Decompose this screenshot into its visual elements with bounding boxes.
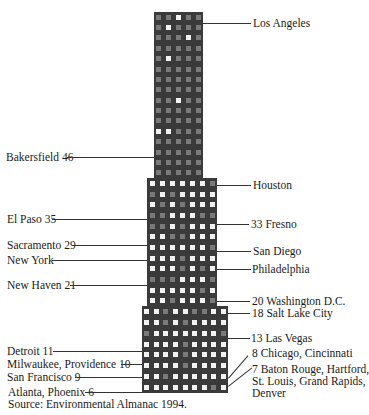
window-icon [166, 77, 171, 82]
window-icon [190, 288, 195, 293]
window-icon [156, 56, 161, 61]
leader-las-vegas [228, 338, 250, 339]
window-icon [144, 385, 149, 390]
leader-detroit [53, 351, 142, 352]
window-icon [173, 363, 178, 368]
window-icon [180, 256, 185, 261]
window-icon [211, 374, 216, 379]
source-note: Source: Environmental Almanac 1994. [8, 398, 187, 410]
window-icon [154, 385, 159, 390]
window-icon [186, 15, 191, 20]
window-icon [210, 181, 215, 186]
window-icon [156, 150, 161, 155]
building-tier-middle [147, 178, 217, 306]
window-icon [186, 25, 191, 30]
window-icon [144, 331, 149, 336]
window-icon [173, 331, 178, 336]
window-icon [202, 342, 207, 347]
leader-philadelphia [217, 269, 251, 270]
window-icon [163, 374, 168, 379]
window-icon [156, 67, 161, 72]
window-icon [186, 118, 191, 123]
window-icon [150, 181, 155, 186]
window-icon [190, 213, 195, 218]
label-baton-rouge-3: Denver [252, 387, 286, 399]
window-icon [176, 160, 181, 165]
window-icon [210, 298, 215, 303]
window-icon [211, 320, 216, 325]
window-icon [200, 181, 205, 186]
window-icon [173, 320, 178, 325]
window-icon [180, 234, 185, 239]
window-icon [196, 118, 201, 123]
window-icon [176, 170, 181, 175]
window-icon [202, 363, 207, 368]
window-icon [196, 87, 201, 92]
label-bakersfield: Bakersfield 46 [6, 151, 73, 163]
window-icon [183, 385, 188, 390]
window-icon [166, 67, 171, 72]
window-icon [210, 234, 215, 239]
window-icon [176, 15, 181, 20]
window-icon [180, 202, 185, 207]
window-icon [186, 46, 191, 51]
window-icon [176, 118, 181, 123]
window-icon [211, 342, 216, 347]
leader-new-york [52, 260, 147, 261]
window-icon [202, 374, 207, 379]
window-icon [180, 277, 185, 282]
window-icon [166, 118, 171, 123]
window-icon [156, 77, 161, 82]
window-icon [190, 298, 195, 303]
window-icon [186, 129, 191, 134]
window-icon [163, 331, 168, 336]
window-icon [163, 385, 168, 390]
window-icon [144, 363, 149, 368]
window-icon [156, 35, 161, 40]
window-icon [150, 192, 155, 197]
window-icon [211, 352, 216, 357]
label-el-paso: El Paso 35 [7, 213, 56, 225]
window-icon [166, 98, 171, 103]
window-icon [176, 139, 181, 144]
window-icon [163, 320, 168, 325]
window-icon [196, 150, 201, 155]
window-icon [200, 202, 205, 207]
window-icon [150, 277, 155, 282]
leader-el-paso [52, 219, 147, 220]
window-icon [180, 213, 185, 218]
window-icon [192, 342, 197, 347]
window-icon [183, 352, 188, 357]
label-baton-rouge-1: 7 Baton Rouge, Hartford, [252, 363, 369, 375]
window-icon [221, 309, 226, 314]
label-atlanta: Atlanta, Phoenix 6 [8, 386, 94, 398]
label-detroit: Detroit 11 [7, 345, 54, 357]
window-icon [176, 46, 181, 51]
window-icon [196, 108, 201, 113]
label-fresno: 33 Fresno [251, 218, 297, 230]
window-icon [221, 385, 226, 390]
window-icon [166, 170, 171, 175]
window-icon [202, 385, 207, 390]
window-icon [170, 202, 175, 207]
window-icon [156, 160, 161, 165]
window-icon [202, 320, 207, 325]
window-icon [211, 385, 216, 390]
window-icon [183, 374, 188, 379]
window-icon [156, 87, 161, 92]
window-icon [160, 245, 165, 250]
window-icon [192, 385, 197, 390]
window-icon [156, 118, 161, 123]
window-icon [186, 108, 191, 113]
window-icon [156, 108, 161, 113]
window-icon [180, 181, 185, 186]
window-icon [180, 192, 185, 197]
window-icon [221, 363, 226, 368]
window-icon [202, 309, 207, 314]
window-icon [186, 87, 191, 92]
window-icon [156, 25, 161, 30]
window-icon [211, 363, 216, 368]
window-icon [210, 256, 215, 261]
window-icon [186, 150, 191, 155]
window-icon [173, 385, 178, 390]
